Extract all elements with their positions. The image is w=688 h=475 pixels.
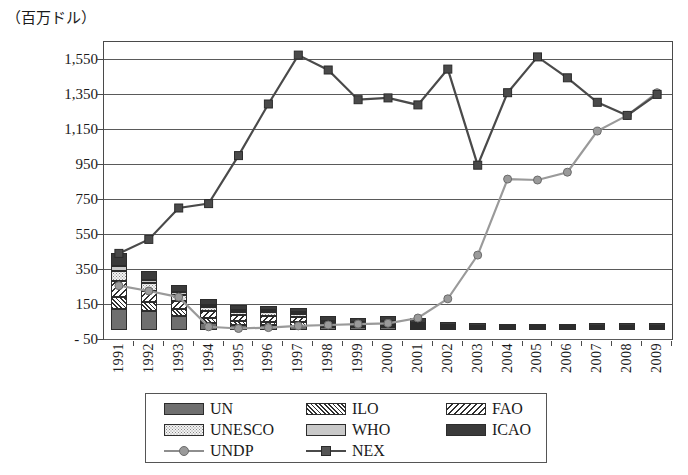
x-axis-tick-label: 2008 xyxy=(619,343,635,373)
legend-item-ilo[interactable]: ILO xyxy=(306,400,379,418)
legend-item-nex[interactable]: NEX xyxy=(306,442,385,460)
y-axis-tick-label: 550 xyxy=(76,226,99,243)
marker-nex xyxy=(145,235,153,243)
x-axis-tick xyxy=(522,341,523,346)
marker-undp xyxy=(563,168,571,176)
x-axis-tick-label: 1993 xyxy=(171,343,187,373)
marker-undp xyxy=(384,319,392,327)
chart-legend: UNILOFAOUNESCOWHOICAOUNDPNEX xyxy=(145,393,547,463)
marker-undp xyxy=(145,287,153,295)
legend-label: ILO xyxy=(352,400,379,418)
x-axis-tick xyxy=(252,341,253,346)
marker-undp xyxy=(294,322,302,330)
x-axis-tick-label: 2009 xyxy=(649,343,665,373)
y-axis-tick-label: 950 xyxy=(76,156,99,173)
marker-nex xyxy=(653,90,661,98)
x-axis-tick-label: 1999 xyxy=(350,343,366,373)
x-axis-tick xyxy=(462,341,463,346)
x-axis-tick-label: 1994 xyxy=(201,343,217,373)
x-axis-tick-label: 2005 xyxy=(529,343,545,373)
x-axis-tick-label: 1997 xyxy=(290,343,306,373)
x-axis-tick-label: 2003 xyxy=(470,343,486,373)
marker-undp xyxy=(235,325,243,333)
legend-label: FAO xyxy=(492,400,523,418)
y-axis-tick-label: 1,150 xyxy=(64,121,98,138)
line-undp xyxy=(119,93,657,329)
marker-nex xyxy=(115,249,123,257)
marker-nex xyxy=(294,51,302,59)
legend-item-icao[interactable]: ICAO xyxy=(446,421,531,439)
marker-nex xyxy=(414,101,422,109)
line-nex xyxy=(119,55,657,253)
x-axis-tick xyxy=(671,341,672,346)
x-axis-tick xyxy=(342,341,343,346)
marker-nex xyxy=(324,66,332,74)
y-axis-tick-label: 150 xyxy=(76,296,99,313)
x-axis-tick xyxy=(193,341,194,346)
chart-root: （百万ドル） - 501503505507509501,1501,3501,55… xyxy=(0,0,688,475)
y-axis-unit-label: （百万ドル） xyxy=(6,6,96,27)
marker-nex xyxy=(354,96,362,104)
x-axis-tick xyxy=(133,341,134,346)
marker-undp xyxy=(444,295,452,303)
legend-line-swatch-undp xyxy=(164,445,204,457)
legend-swatch-icao xyxy=(446,424,486,436)
legend-label: ICAO xyxy=(492,421,531,439)
marker-undp xyxy=(115,282,123,290)
x-axis-tick xyxy=(611,341,612,346)
marker-undp xyxy=(175,293,183,301)
marker-nex xyxy=(264,100,272,108)
x-axis-tick xyxy=(641,341,642,346)
gridline xyxy=(104,339,672,340)
x-axis-tick-label: 2002 xyxy=(440,343,456,373)
legend-item-un[interactable]: UN xyxy=(164,400,233,418)
marker-undp xyxy=(593,127,601,135)
legend-swatch-unesco xyxy=(164,424,204,436)
legend-label: NEX xyxy=(352,442,385,460)
marker-nex xyxy=(175,204,183,212)
x-axis-tick-label: 2007 xyxy=(589,343,605,373)
x-axis-tick xyxy=(492,341,493,346)
legend-line-swatch-nex xyxy=(306,445,346,457)
x-axis-tick-label: 2004 xyxy=(500,343,516,373)
line-series-layer xyxy=(104,42,672,339)
x-axis-tick-label: 1991 xyxy=(111,343,127,373)
x-axis-tick xyxy=(163,341,164,346)
x-axis-tick-label: 2001 xyxy=(410,343,426,373)
legend-swatch-ilo xyxy=(306,403,346,415)
marker-nex xyxy=(474,161,482,169)
legend-item-group: UNILOFAOUNESCOWHOICAOUNDPNEX xyxy=(146,394,546,462)
marker-undp xyxy=(264,324,272,332)
x-axis-tick xyxy=(551,341,552,346)
marker-undp xyxy=(504,175,512,183)
marker-nex xyxy=(593,98,601,106)
marker-nex xyxy=(235,152,243,160)
marker-undp xyxy=(324,321,332,329)
marker-undp xyxy=(474,251,482,259)
x-axis-tick-label: 1995 xyxy=(231,343,247,373)
x-axis-tick-label: 1992 xyxy=(141,343,157,373)
x-axis-label-group: 1991199219931994199519961997199819992000… xyxy=(103,341,673,393)
legend-label: UN xyxy=(210,400,233,418)
marker-undp xyxy=(205,323,213,331)
marker-nex xyxy=(623,111,631,119)
y-axis-tick-label: 350 xyxy=(76,261,99,278)
marker-undp xyxy=(354,320,362,328)
x-axis-tick xyxy=(223,341,224,346)
legend-label: UNESCO xyxy=(210,421,274,439)
marker-nex xyxy=(504,89,512,97)
legend-item-undp[interactable]: UNDP xyxy=(164,442,254,460)
x-axis-tick xyxy=(372,341,373,346)
x-axis-tick-label: 2006 xyxy=(559,343,575,373)
x-axis-tick xyxy=(282,341,283,346)
x-axis-tick xyxy=(581,341,582,346)
legend-label: WHO xyxy=(352,421,390,439)
legend-item-who[interactable]: WHO xyxy=(306,421,390,439)
x-axis-tick-label: 2000 xyxy=(380,343,396,373)
legend-item-unesco[interactable]: UNESCO xyxy=(164,421,274,439)
marker-nex xyxy=(563,74,571,82)
legend-item-fao[interactable]: FAO xyxy=(446,400,523,418)
marker-nex xyxy=(205,200,213,208)
y-axis-tick-label: 750 xyxy=(76,191,99,208)
y-axis-label-group: - 501503505507509501,1501,3501,550 xyxy=(0,41,98,340)
